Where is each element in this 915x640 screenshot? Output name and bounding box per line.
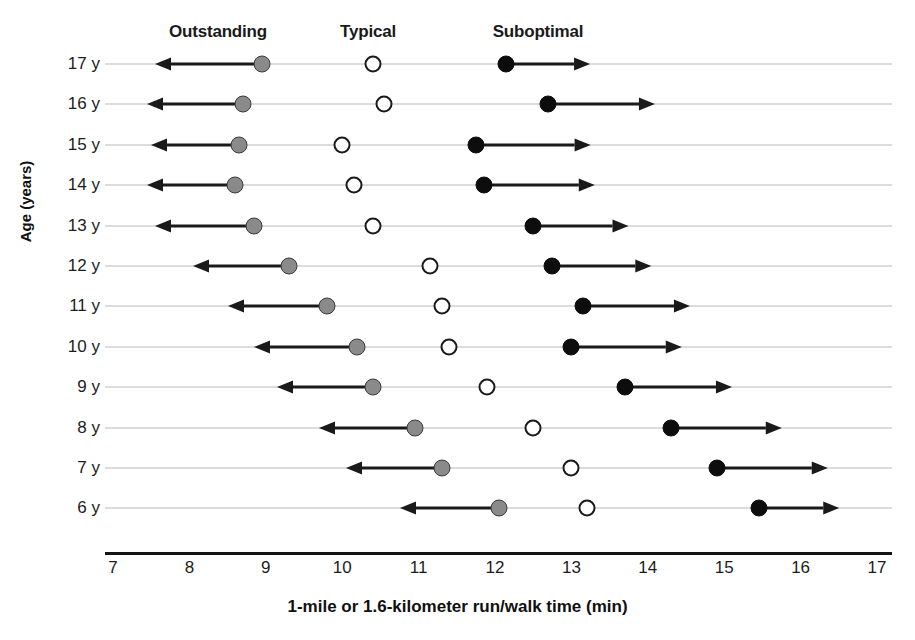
arrow-outstanding-11-y: [228, 295, 327, 317]
arrow-suboptimal-7-y: [717, 457, 828, 479]
arrow-suboptimal-14-y: [484, 174, 595, 196]
arrow-outstanding-14-y: [147, 174, 235, 196]
plot-area: [0, 0, 915, 640]
arrow-suboptimal-13-y: [533, 215, 629, 237]
marker-outstanding-11-y: [318, 298, 335, 315]
marker-outstanding-6-y: [490, 500, 507, 517]
marker-suboptimal-9-y: [616, 379, 633, 396]
arrow-outstanding-9-y: [277, 376, 373, 398]
marker-suboptimal-17-y: [498, 56, 515, 73]
arrow-outstanding-7-y: [346, 457, 442, 479]
marker-typical-16-y: [376, 96, 393, 113]
arrow-suboptimal-12-y: [552, 255, 651, 277]
arrow-outstanding-13-y: [155, 215, 254, 237]
marker-typical-6-y: [578, 500, 595, 517]
marker-typical-11-y: [433, 298, 450, 315]
marker-outstanding-13-y: [246, 217, 263, 234]
marker-suboptimal-15-y: [467, 136, 484, 153]
marker-typical-13-y: [364, 217, 381, 234]
marker-typical-14-y: [345, 177, 362, 194]
marker-outstanding-17-y: [253, 56, 270, 73]
marker-outstanding-15-y: [231, 136, 248, 153]
arrow-suboptimal-8-y: [671, 417, 782, 439]
arrow-outstanding-12-y: [193, 255, 289, 277]
x-tick-17: 17: [868, 558, 887, 578]
marker-suboptimal-13-y: [525, 217, 542, 234]
arrow-suboptimal-6-y: [759, 497, 839, 519]
arrow-outstanding-15-y: [151, 134, 239, 156]
marker-suboptimal-14-y: [475, 177, 492, 194]
x-tick-15: 15: [715, 558, 734, 578]
arrow-suboptimal-11-y: [583, 295, 690, 317]
x-tick-16: 16: [791, 558, 810, 578]
marker-outstanding-8-y: [406, 419, 423, 436]
marker-suboptimal-6-y: [750, 500, 767, 517]
marker-typical-10-y: [441, 338, 458, 355]
x-tick-11: 11: [410, 558, 428, 578]
x-tick-9: 9: [261, 558, 270, 578]
marker-typical-8-y: [525, 419, 542, 436]
marker-outstanding-16-y: [234, 96, 251, 113]
arrow-suboptimal-9-y: [625, 376, 732, 398]
marker-outstanding-9-y: [364, 379, 381, 396]
x-tick-10: 10: [333, 558, 352, 578]
arrow-outstanding-10-y: [254, 336, 357, 358]
gridline-row: [105, 306, 892, 307]
marker-suboptimal-8-y: [662, 419, 679, 436]
marker-typical-12-y: [422, 258, 439, 275]
x-tick-14: 14: [638, 558, 657, 578]
marker-typical-17-y: [364, 56, 381, 73]
x-tick-8: 8: [185, 558, 194, 578]
marker-typical-7-y: [563, 460, 580, 477]
marker-outstanding-12-y: [280, 258, 297, 275]
x-tick-7: 7: [108, 558, 117, 578]
marker-suboptimal-11-y: [574, 298, 591, 315]
arrow-suboptimal-17-y: [506, 53, 590, 75]
marker-outstanding-7-y: [433, 460, 450, 477]
x-axis-line: [105, 552, 892, 555]
marker-suboptimal-16-y: [540, 96, 557, 113]
arrow-outstanding-6-y: [400, 497, 499, 519]
arrow-suboptimal-15-y: [476, 134, 591, 156]
marker-typical-9-y: [479, 379, 496, 396]
marker-outstanding-10-y: [349, 338, 366, 355]
x-tick-12: 12: [486, 558, 505, 578]
arrow-outstanding-8-y: [319, 417, 415, 439]
arrow-outstanding-17-y: [155, 53, 262, 75]
gridline-row: [105, 387, 892, 388]
x-axis-title: 1-mile or 1.6-kilometer run/walk time (m…: [0, 597, 915, 617]
marker-suboptimal-12-y: [544, 258, 561, 275]
marker-typical-15-y: [334, 136, 351, 153]
marker-suboptimal-7-y: [708, 460, 725, 477]
arrow-suboptimal-10-y: [571, 336, 682, 358]
run-walk-time-chart: OutstandingTypicalSuboptimal Age (years)…: [0, 0, 915, 640]
gridline-row: [105, 346, 892, 347]
marker-outstanding-14-y: [227, 177, 244, 194]
marker-suboptimal-10-y: [563, 338, 580, 355]
x-tick-13: 13: [562, 558, 581, 578]
arrow-suboptimal-16-y: [548, 93, 655, 115]
arrow-outstanding-16-y: [147, 93, 243, 115]
